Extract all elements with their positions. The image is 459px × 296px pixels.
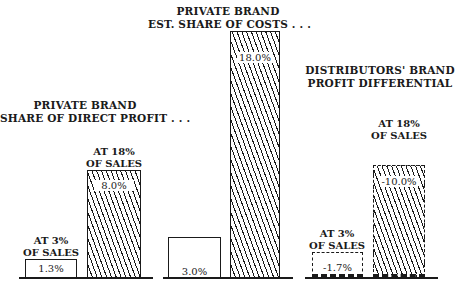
panel3-bar-high-value: -10.0%: [380, 176, 418, 187]
panel1-bar-low: 1.3%: [25, 259, 77, 277]
panel1-bar-low-value: 1.3%: [26, 263, 76, 274]
panel1-bar-high-value: 8.0%: [94, 180, 134, 191]
panel2-baseline: [163, 277, 293, 279]
panel2-bar-high: 18.0%: [230, 31, 280, 277]
panel1-low-label-line1: AT 3%: [16, 235, 86, 247]
panel1-bar-high: 8.0%: [87, 170, 141, 277]
panel1-low-label-line2: OF SALES: [16, 247, 86, 259]
panel3-bar-low: -1.7%: [312, 252, 363, 277]
panel3-high-label-line1: AT 18%: [364, 118, 434, 130]
panel3-low-label: AT 3% OF SALES: [302, 228, 372, 252]
panel2-bar-low: 3.0%: [168, 237, 221, 277]
panel1-high-label-line2: OF SALES: [79, 158, 149, 170]
panel3-low-label-line1: AT 3%: [302, 228, 372, 240]
panel3-baseline: [305, 277, 438, 279]
panel1-high-label: AT 18% OF SALES: [79, 146, 149, 170]
panel3-title-line2: PROFIT DIFFERENTIAL: [305, 77, 455, 90]
panel3-bar-low-value: -1.7%: [319, 262, 356, 273]
panel3-bar-high: -10.0%: [373, 165, 425, 277]
panel3-high-label-line2: OF SALES: [364, 130, 434, 142]
panel1-high-label-line1: AT 18%: [79, 146, 149, 158]
panel2-bar-low-value: 3.0%: [169, 266, 220, 277]
panel1-low-label: AT 3% OF SALES: [16, 235, 86, 259]
panel1-title: PRIVATE BRAND SHARE OF DIRECT PROFIT . .…: [0, 99, 170, 125]
panel3-title: DISTRIBUTORS' BRAND PROFIT DIFFERENTIAL: [305, 64, 455, 90]
panel2-title-line2: EST. SHARE OF COSTS . . .: [148, 18, 308, 31]
panel1-title-line2: SHARE OF DIRECT PROFIT . . .: [0, 112, 170, 125]
panel3-low-label-line2: OF SALES: [302, 240, 372, 252]
panel3-title-line1: DISTRIBUTORS' BRAND: [305, 64, 455, 77]
panel2-title: PRIVATE BRAND EST. SHARE OF COSTS . . .: [148, 5, 308, 31]
panel2-bar-high-value: 18.0%: [237, 52, 273, 63]
panel1-title-line1: PRIVATE BRAND: [0, 99, 170, 112]
panel3-high-label: AT 18% OF SALES: [364, 118, 434, 142]
panel2-title-line1: PRIVATE BRAND: [148, 5, 308, 18]
panel1-baseline: [19, 277, 153, 279]
